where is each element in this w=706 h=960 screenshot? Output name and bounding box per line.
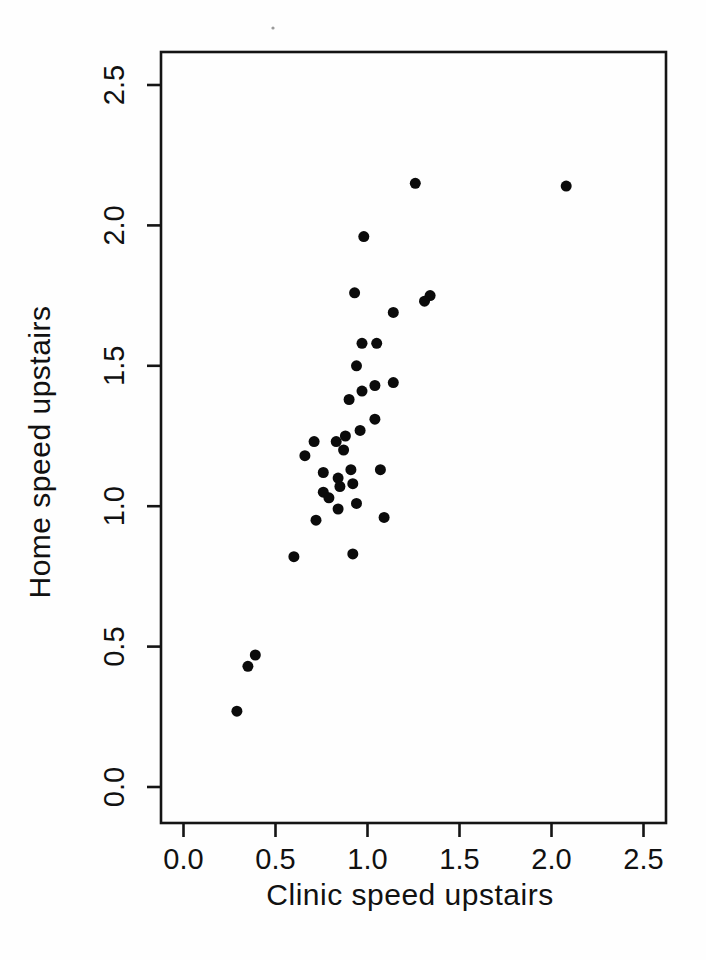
y-tick-label: 2.0 (98, 205, 130, 245)
data-point (333, 504, 344, 515)
data-point (351, 360, 362, 371)
data-point (242, 661, 253, 672)
x-axis-label: Clinic speed upstairs (266, 878, 553, 911)
data-point (347, 478, 358, 489)
x-tick-label: 1.0 (347, 843, 387, 875)
data-point (340, 431, 351, 442)
data-point (331, 436, 342, 447)
y-tick-label: 0.0 (98, 767, 130, 807)
data-point (231, 706, 242, 717)
data-point (369, 380, 380, 391)
data-point (410, 178, 421, 189)
scan-artifacts-layer (271, 26, 274, 29)
data-point (299, 450, 310, 461)
data-point (419, 296, 430, 307)
data-point (388, 307, 399, 318)
data-point (345, 464, 356, 475)
data-point (309, 436, 320, 447)
data-point (357, 386, 368, 397)
data-point (311, 515, 322, 526)
y-tick-label: 2.5 (98, 65, 130, 105)
data-point (288, 551, 299, 562)
x-axis-ticks: 0.00.51.01.52.02.5 (163, 823, 663, 875)
y-tick-label: 1.5 (98, 346, 130, 386)
scatter-chart: 0.00.51.01.52.02.5 0.00.51.01.52.02.5 Cl… (0, 0, 706, 960)
data-point (371, 338, 382, 349)
data-point (344, 394, 355, 405)
data-point (318, 467, 329, 478)
data-point (351, 498, 362, 509)
x-tick-label: 2.0 (531, 843, 571, 875)
data-point (338, 445, 349, 456)
x-tick-label: 2.5 (623, 843, 663, 875)
scanned-figure-page: 0.00.51.01.52.02.5 0.00.51.01.52.02.5 Cl… (0, 0, 706, 960)
data-points-layer (231, 178, 571, 717)
data-point (323, 492, 334, 503)
y-axis-ticks: 0.00.51.01.52.02.5 (98, 65, 161, 807)
data-point (561, 181, 572, 192)
y-tick-label: 0.5 (98, 626, 130, 666)
data-point (375, 464, 386, 475)
data-point (355, 425, 366, 436)
y-axis-label: Home speed upstairs (23, 306, 56, 599)
y-tick-label: 1.0 (98, 486, 130, 526)
data-point (334, 481, 345, 492)
x-tick-label: 0.0 (163, 843, 203, 875)
data-point (388, 377, 399, 388)
data-point (349, 287, 360, 298)
data-point (369, 414, 380, 425)
scan-speck (271, 26, 274, 29)
x-tick-label: 1.5 (439, 843, 479, 875)
data-point (357, 338, 368, 349)
data-point (379, 512, 390, 523)
x-tick-label: 0.5 (255, 843, 295, 875)
data-point (347, 548, 358, 559)
data-point (250, 650, 261, 661)
data-point (358, 231, 369, 242)
